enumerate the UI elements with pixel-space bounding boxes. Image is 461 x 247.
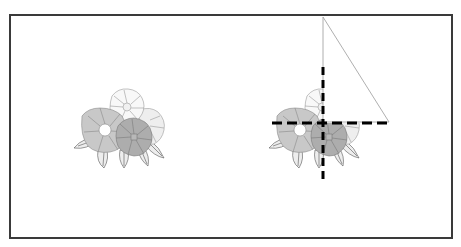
diagram-canvas (0, 0, 461, 247)
slide-frame (10, 15, 452, 238)
